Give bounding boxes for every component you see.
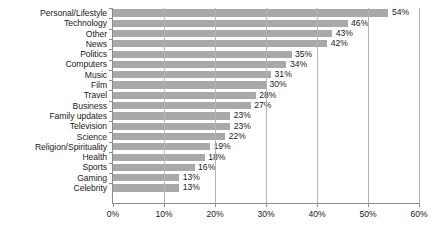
gridline bbox=[215, 8, 216, 203]
y-axis-category-label: Television bbox=[0, 121, 110, 131]
x-axis-tick-label: 0% bbox=[107, 209, 119, 219]
x-axis-tick-label: 20% bbox=[206, 209, 223, 219]
x-axis-tick bbox=[419, 203, 420, 207]
y-axis-category-label: Technology bbox=[0, 18, 110, 28]
y-axis-tick bbox=[109, 163, 112, 164]
bar bbox=[113, 9, 388, 16]
x-axis-tick bbox=[113, 203, 114, 207]
bar-value-label: 16% bbox=[195, 162, 216, 172]
x-axis-tick bbox=[266, 203, 267, 207]
bar bbox=[113, 112, 230, 119]
y-axis-tick bbox=[109, 39, 112, 40]
x-axis-tick bbox=[164, 203, 165, 207]
y-axis-category-label: Business bbox=[0, 101, 110, 111]
y-axis-tick bbox=[109, 18, 112, 19]
bar-value-label: 46% bbox=[348, 18, 369, 28]
bar bbox=[113, 71, 271, 78]
y-axis-category-labels: Personal/LifestyleTechnologyOtherNewsPol… bbox=[0, 8, 110, 193]
y-axis-tick bbox=[109, 8, 112, 9]
y-axis-tick bbox=[109, 70, 112, 71]
bar bbox=[113, 40, 327, 47]
y-axis-tick bbox=[109, 183, 112, 184]
y-axis-category-label: Personal/Lifestyle bbox=[0, 8, 110, 18]
y-axis-category-label: Politics bbox=[0, 49, 110, 59]
x-axis-tick-label: 50% bbox=[359, 209, 376, 219]
bar bbox=[113, 51, 292, 58]
bar-value-label: 31% bbox=[271, 69, 292, 79]
y-axis-tick bbox=[109, 132, 112, 133]
bar bbox=[113, 133, 225, 140]
x-axis-tick-label: 60% bbox=[410, 209, 427, 219]
bar-value-label: 23% bbox=[230, 110, 251, 120]
x-axis-tick-label: 40% bbox=[308, 209, 325, 219]
y-axis-tick bbox=[109, 60, 112, 61]
bar-chart: Personal/LifestyleTechnologyOtherNewsPol… bbox=[0, 0, 438, 237]
bar-value-label: 35% bbox=[292, 49, 313, 59]
x-axis-tick bbox=[317, 203, 318, 207]
y-axis-tick bbox=[109, 111, 112, 112]
y-axis-category-label: Sports bbox=[0, 162, 110, 172]
y-axis-tick bbox=[109, 90, 112, 91]
y-axis-category-label: Travel bbox=[0, 90, 110, 100]
bar bbox=[113, 92, 256, 99]
y-axis-tick bbox=[109, 49, 112, 50]
y-axis-category-label: News bbox=[0, 39, 110, 49]
bar-value-label: 13% bbox=[179, 172, 200, 182]
gridline bbox=[368, 8, 369, 203]
plot-area: 54%46%43%42%35%34%31%30%28%27%23%23%22%1… bbox=[113, 8, 419, 203]
y-axis-category-label: Other bbox=[0, 29, 110, 39]
x-axis-tick-label: 10% bbox=[155, 209, 172, 219]
bar-value-label: 19% bbox=[210, 141, 231, 151]
bar-value-label: 13% bbox=[179, 182, 200, 192]
bar bbox=[113, 61, 286, 68]
y-axis-tick bbox=[109, 152, 112, 153]
y-axis-category-label: Family updates bbox=[0, 111, 110, 121]
bar bbox=[113, 184, 179, 191]
y-axis-tick bbox=[109, 173, 112, 174]
y-axis-tick bbox=[109, 101, 112, 102]
bar-value-label: 23% bbox=[230, 121, 251, 131]
x-axis-tick bbox=[215, 203, 216, 207]
x-axis-tick-label: 30% bbox=[257, 209, 274, 219]
bar-value-label: 54% bbox=[388, 7, 409, 17]
y-axis-category-label: Religion/Spirituality bbox=[0, 142, 110, 152]
gridline bbox=[266, 8, 267, 203]
y-axis-category-label: Celebrity bbox=[0, 183, 110, 193]
bar bbox=[113, 174, 179, 181]
gridline bbox=[419, 8, 420, 203]
bar-value-label: 30% bbox=[266, 79, 287, 89]
y-axis-tick bbox=[109, 121, 112, 122]
bar bbox=[113, 164, 195, 171]
y-axis-category-label: Computers bbox=[0, 59, 110, 69]
y-axis-category-label: Health bbox=[0, 152, 110, 162]
y-axis-category-label: Music bbox=[0, 70, 110, 80]
gridline bbox=[317, 8, 318, 203]
bar-value-label: 22% bbox=[225, 131, 246, 141]
bar bbox=[113, 81, 266, 88]
bar bbox=[113, 143, 210, 150]
x-axis-tick bbox=[368, 203, 369, 207]
bar-value-label: 42% bbox=[327, 38, 348, 48]
bar-value-label: 43% bbox=[332, 28, 353, 38]
bar bbox=[113, 154, 205, 161]
bar bbox=[113, 123, 230, 130]
y-axis-category-label: Film bbox=[0, 80, 110, 90]
bar bbox=[113, 102, 251, 109]
y-axis-tick bbox=[109, 29, 112, 30]
y-axis-category-label: Gaming bbox=[0, 173, 110, 183]
gridline bbox=[164, 8, 165, 203]
y-axis-tick bbox=[109, 80, 112, 81]
y-axis-tick bbox=[109, 142, 112, 143]
bar-value-label: 27% bbox=[251, 100, 272, 110]
y-axis-category-label: Science bbox=[0, 132, 110, 142]
bar bbox=[113, 20, 348, 27]
y-axis bbox=[112, 8, 113, 203]
bar bbox=[113, 30, 332, 37]
bar-value-label: 34% bbox=[286, 59, 307, 69]
